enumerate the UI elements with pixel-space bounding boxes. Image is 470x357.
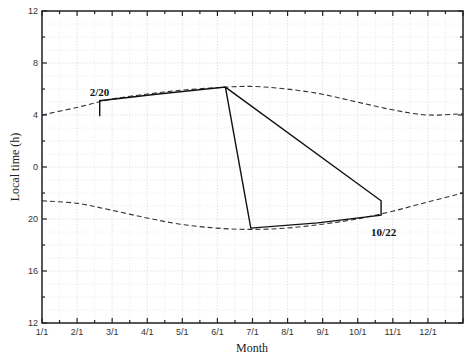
annotation-label: 10/22 <box>371 226 397 238</box>
x-tick-label: 12/1 <box>419 327 437 337</box>
x-tick-label: 7/1 <box>246 327 259 337</box>
x-axis-title: Month <box>236 341 268 355</box>
x-tick-label: 8/1 <box>281 327 294 337</box>
y-tick-label: 8 <box>33 58 38 68</box>
grid-lines <box>42 11 463 323</box>
y-tick-labels: 12840201612 <box>28 6 38 328</box>
y-tick-label: 16 <box>28 266 38 276</box>
y-axis-title: Local time (h) <box>8 133 22 202</box>
y-tick-label: 12 <box>28 6 38 16</box>
x-tick-label: 10/1 <box>349 327 367 337</box>
observation-window-polygon <box>100 87 381 228</box>
x-tick-label: 6/1 <box>211 327 224 337</box>
x-tick-label: 11/1 <box>384 327 401 337</box>
x-tick-labels: 1/12/13/14/15/16/17/18/19/110/111/112/1 <box>36 327 437 337</box>
y-tick-label: 4 <box>33 110 38 120</box>
x-tick-label: 5/1 <box>176 327 189 337</box>
annotations: 2/2010/22 <box>90 86 397 238</box>
y-tick-label: 20 <box>28 214 38 224</box>
chart: 12840201612 1/12/13/14/15/16/17/18/19/11… <box>0 0 470 357</box>
annotation-label: 2/20 <box>90 86 110 98</box>
y-tick-label: 0 <box>33 162 38 172</box>
x-tick-label: 1/1 <box>36 327 49 337</box>
x-tick-label: 9/1 <box>316 327 329 337</box>
x-tick-label: 2/1 <box>71 327 84 337</box>
x-tick-label: 4/1 <box>141 327 154 337</box>
x-tick-label: 3/1 <box>106 327 119 337</box>
